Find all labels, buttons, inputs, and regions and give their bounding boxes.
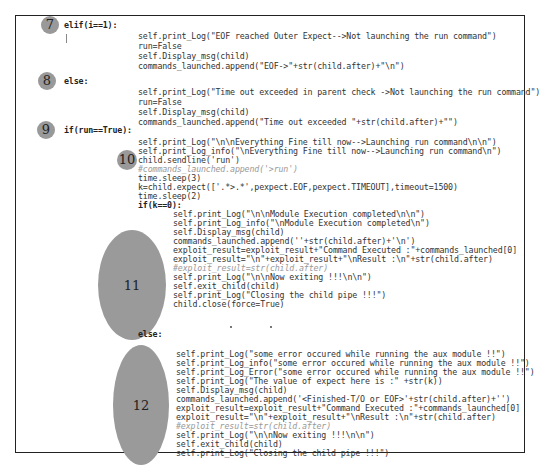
code-line: self.print_Log("EOF reached Outer Expect…: [138, 31, 497, 41]
code-else-header: else:: [64, 76, 88, 86]
callout-badge-10: 10: [117, 150, 137, 170]
callout-oval-12-label: 12: [133, 398, 150, 413]
text-cursor: [66, 34, 67, 43]
callout-badge-7: 7: [41, 16, 59, 34]
code-line: commands_launched.append("EOF->"+str(chi…: [138, 61, 404, 71]
code-line: self.Display_msg(child): [138, 107, 249, 117]
code-line: commands_launched.append("Time out excee…: [138, 117, 458, 127]
code-line: run=False: [138, 41, 182, 51]
code-line: self.print_Log("Time out exceeded in par…: [138, 87, 540, 97]
callout-oval-11-label: 11: [124, 278, 141, 293]
code-if-header: if(run==True):: [64, 125, 132, 135]
callout-badge-9: 9: [37, 121, 55, 139]
code-line: self.Display_msg(child): [138, 51, 249, 61]
code-else-header: else:: [138, 329, 162, 339]
callout-oval-11: 11: [98, 230, 166, 340]
code-line: child.close(force=True): [173, 299, 284, 309]
stray-dot: [230, 326, 232, 328]
stray-dot: [270, 326, 272, 328]
code-elif-header: elif(i==1):: [64, 20, 117, 30]
callout-oval-12: 12: [113, 345, 169, 465]
callout-badge-8: 8: [38, 72, 56, 90]
code-line: run=False: [138, 97, 182, 107]
code-line: self.print_Log("Closing the child pipe !…: [176, 448, 389, 458]
